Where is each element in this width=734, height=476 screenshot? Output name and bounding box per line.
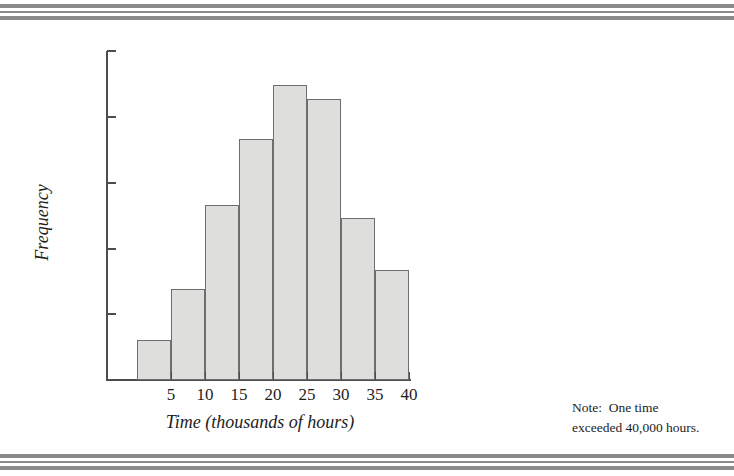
chart-note-line-2: exceeded 40,000 hours. — [572, 418, 732, 438]
histogram-bar — [239, 139, 273, 380]
y-axis-tick — [107, 313, 116, 315]
rule-thick-bottom-2 — [0, 466, 734, 470]
y-axis-tick — [107, 182, 116, 184]
y-axis-tick — [107, 116, 116, 118]
x-axis-tick — [307, 372, 308, 380]
x-axis-tick-label: 40 — [389, 386, 429, 403]
x-axis-tick — [409, 372, 410, 380]
x-axis-tick — [273, 372, 274, 380]
y-axis-tick — [107, 50, 116, 52]
histogram-bar — [137, 340, 171, 380]
histogram-bar — [171, 289, 205, 380]
x-axis-tick — [375, 372, 376, 380]
page-rule-bottom — [0, 454, 734, 470]
y-axis-title: Frequency — [32, 153, 53, 293]
histogram-chart: 325 260 195 130 65 0 5 10 15 20 25 30 35… — [0, 0, 560, 450]
histogram-bar — [307, 99, 341, 380]
y-axis-line — [106, 51, 108, 380]
x-axis-tick — [205, 372, 206, 380]
y-axis-tick — [107, 248, 116, 250]
chart-note: Note: One time exceeded 40,000 hours. — [572, 398, 732, 437]
x-axis-tick — [239, 372, 240, 380]
histogram-bar — [205, 205, 239, 380]
x-axis-tick — [171, 372, 172, 380]
x-axis-title: Time (thousands of hours) — [100, 412, 420, 433]
x-axis-tick — [341, 372, 342, 380]
histogram-bar — [375, 270, 409, 380]
chart-note-line-1: Note: One time — [572, 398, 732, 418]
histogram-bar — [273, 85, 307, 380]
histogram-bar — [341, 218, 375, 380]
